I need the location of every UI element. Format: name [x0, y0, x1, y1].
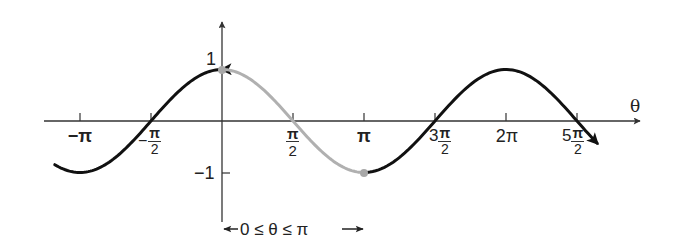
- x-tick-label-two-pi: 2π: [486, 127, 528, 145]
- coefficient: 5: [562, 126, 571, 146]
- coefficient: 3: [429, 126, 438, 146]
- denominator: 2: [289, 142, 297, 158]
- point-max: [218, 66, 226, 74]
- minus-sign: −: [138, 132, 147, 150]
- denominator: 2: [441, 142, 449, 157]
- y-tick-label-neg1: −1: [194, 164, 215, 182]
- numerator: π: [148, 126, 161, 142]
- point-min: [360, 169, 368, 177]
- x-tick-label-five-half-pi: 5 π 2: [562, 126, 584, 156]
- numerator: π: [286, 126, 299, 142]
- numerator: π: [571, 126, 584, 142]
- x-tick-label-neg-half-pi: − π 2: [138, 126, 161, 156]
- x-tick-label-three-half-pi: 3 π 2: [429, 126, 451, 156]
- numerator: π: [438, 126, 451, 142]
- y-tick-label-1: 1: [206, 50, 216, 68]
- denominator: 2: [574, 142, 582, 157]
- interval-text: 0 ≤ θ ≤ π: [240, 220, 308, 239]
- x-axis-label: θ: [630, 96, 640, 116]
- x-tick-label-half-pi: π 2: [286, 126, 299, 158]
- denominator: 2: [151, 142, 159, 157]
- interval-annotation: 0 ≤ θ ≤ π: [240, 220, 308, 240]
- x-tick-label-neg-pi: −π: [56, 127, 104, 145]
- x-tick-label-pi: π: [352, 127, 376, 145]
